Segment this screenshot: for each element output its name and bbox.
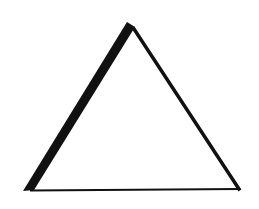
triangle-icon bbox=[0, 0, 259, 209]
triangle-drawing bbox=[0, 0, 259, 209]
